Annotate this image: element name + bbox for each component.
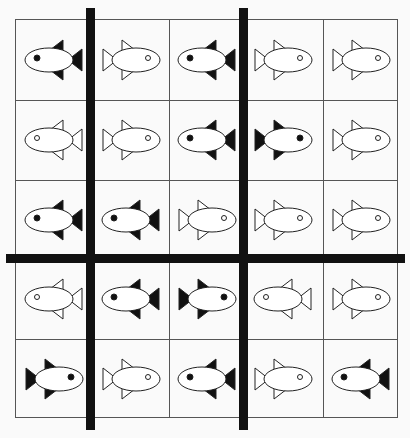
fish-icon-black-facing-right (16, 339, 92, 418)
grid-cell-r3-c3 (169, 180, 245, 259)
grid-cell-r4-c5 (323, 259, 399, 339)
grid-cell-r5-c1 (16, 339, 93, 419)
grid-cell-r5-c5 (323, 339, 399, 419)
grid-cell-r3-c4 (245, 180, 323, 259)
grid-cell-r4-c3 (169, 259, 245, 339)
grid-cell-r4-c1 (16, 259, 93, 339)
grid-cell-r2-c5 (323, 100, 399, 180)
grid-cell-r2-c3 (169, 100, 245, 180)
fish-icon-white-facing-right (245, 180, 321, 259)
fish-icon-white-facing-right (323, 259, 399, 338)
grid-cell-r1-c4 (245, 20, 323, 100)
grid-cell-r4-c4 (245, 259, 323, 339)
grid-cell-r4-c2 (93, 259, 169, 339)
fish-icon-black-facing-left (16, 20, 92, 99)
fish-grid (15, 19, 398, 418)
fish-icon-black-facing-left (16, 180, 92, 259)
fish-icon-white-facing-right (245, 20, 321, 99)
grid-cell-r5-c2 (93, 339, 169, 419)
grid-cell-r1-c3 (169, 20, 245, 100)
fish-icon-white-facing-right (93, 20, 169, 99)
fish-grid-puzzle (0, 0, 410, 438)
fish-icon-black-facing-right (245, 100, 321, 179)
divider-bar-horizontal (6, 254, 405, 263)
fish-icon-black-facing-left (169, 100, 245, 179)
grid-cell-r1-c2 (93, 20, 169, 100)
fish-icon-white-facing-left (245, 259, 321, 338)
grid-cell-r3-c2 (93, 180, 169, 259)
fish-icon-white-facing-right (93, 100, 169, 179)
grid-cell-r5-c4 (245, 339, 323, 419)
fish-icon-white-facing-right (169, 180, 245, 259)
divider-bar-vertical-1 (86, 8, 95, 430)
fish-icon-white-facing-right (245, 339, 321, 418)
fish-icon-black-facing-left (169, 339, 245, 418)
grid-cell-r1-c5 (323, 20, 399, 100)
grid-cell-r3-c5 (323, 180, 399, 259)
fish-icon-black-facing-left (169, 20, 245, 99)
grid-cell-r1-c1 (16, 20, 93, 100)
fish-icon-white-facing-right (93, 339, 169, 418)
fish-icon-black-facing-left (323, 339, 399, 418)
grid-cell-r2-c1 (16, 100, 93, 180)
fish-icon-white-facing-left (16, 100, 92, 179)
grid-cell-r5-c3 (169, 339, 245, 419)
grid-cell-r3-c1 (16, 180, 93, 259)
divider-bar-vertical-2 (239, 8, 248, 430)
fish-icon-white-facing-left (16, 259, 92, 338)
grid-cell-r2-c2 (93, 100, 169, 180)
fish-icon-white-facing-right (323, 20, 399, 99)
fish-icon-black-facing-left (93, 180, 169, 259)
fish-icon-white-facing-right (323, 180, 399, 259)
grid-cell-r2-c4 (245, 100, 323, 180)
fish-icon-white-facing-right (323, 100, 399, 179)
fish-icon-black-facing-right (169, 259, 245, 338)
fish-icon-black-facing-left (93, 259, 169, 338)
